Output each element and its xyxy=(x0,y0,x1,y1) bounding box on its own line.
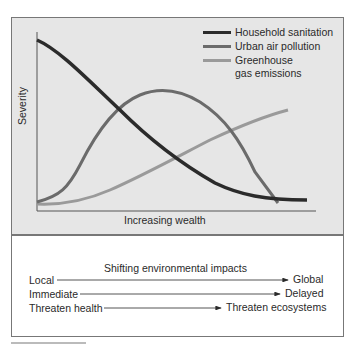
legend-label: Household sanitation xyxy=(235,25,333,39)
legend-swatch-icon xyxy=(203,59,231,62)
urban-air-pollution-curve xyxy=(37,91,278,203)
footer-divider xyxy=(11,342,86,344)
legend-label: Greenhouse xyxy=(235,53,293,67)
shift-from-immediate: Immediate xyxy=(29,288,78,300)
x-axis-label: Increasing wealth xyxy=(124,214,206,226)
shift-from-threaten-health: Threaten health xyxy=(29,302,103,314)
shifts-panel xyxy=(11,235,344,337)
shift-to-delayed: Delayed xyxy=(285,287,324,299)
greenhouse-gas-curve xyxy=(37,110,288,204)
shift-from-local: Local xyxy=(29,274,54,286)
y-axis-label: Severity xyxy=(16,87,28,125)
shift-to-global: Global xyxy=(293,273,323,285)
legend-label: gas emissions xyxy=(235,66,302,80)
legend-swatch-icon xyxy=(203,45,231,48)
shift-to-threaten-ecosystems: Threaten ecosystems xyxy=(226,301,326,313)
legend-label: Urban air pollution xyxy=(235,39,320,53)
legend-swatch-icon xyxy=(203,31,231,34)
shifts-title: Shifting environmental impacts xyxy=(104,262,247,274)
